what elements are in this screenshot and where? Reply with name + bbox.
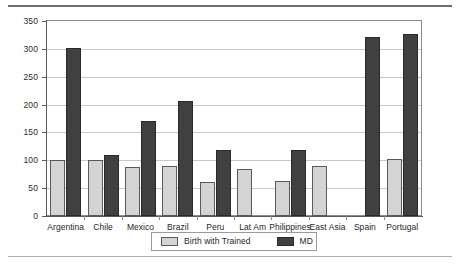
chart-legend: Birth with Trained MD xyxy=(151,232,317,251)
legend-label: MD xyxy=(300,237,313,246)
x-axis-tick-mark xyxy=(197,216,198,220)
bar-birth-with-trained xyxy=(200,182,215,216)
legend-item-birth-with-trained: Birth with Trained xyxy=(161,237,251,246)
legend-swatch-dark-gray-swatch xyxy=(277,237,294,246)
bar-birth-with-trained xyxy=(387,159,402,216)
bar-md xyxy=(365,37,380,216)
bar-birth-with-trained xyxy=(88,160,103,216)
bar-md xyxy=(216,150,231,216)
bar-md xyxy=(66,48,81,216)
bar-group xyxy=(47,21,421,216)
bar-birth-with-trained xyxy=(125,167,140,216)
y-axis-tick-label: 350 xyxy=(0,17,38,26)
bar-birth-with-trained xyxy=(312,166,327,216)
bar-md xyxy=(141,121,156,216)
chart-page: 050100150200250300350 ArgentinaChileMexi… xyxy=(0,0,460,268)
x-axis-tick-mark xyxy=(309,216,310,220)
y-axis-tick-mark xyxy=(42,216,47,217)
x-axis-tick-mark xyxy=(122,216,123,220)
legend-label: Birth with Trained xyxy=(184,237,251,246)
y-axis-tick-label: 50 xyxy=(0,184,38,193)
x-axis-tick-mark xyxy=(159,216,160,220)
bottom-divider-rule xyxy=(8,256,452,257)
y-axis-tick-label: 250 xyxy=(0,72,38,81)
y-axis-tick-label: 100 xyxy=(0,156,38,165)
x-axis-tick-label: Portugal xyxy=(371,221,435,233)
x-axis-tick-mark xyxy=(384,216,385,220)
bar-md xyxy=(178,101,193,216)
y-axis-tick-label: 200 xyxy=(0,100,38,109)
bar-md xyxy=(403,34,418,216)
legend-item-md: MD xyxy=(277,237,313,246)
bar-md xyxy=(104,155,119,216)
y-axis-tick-label: 150 xyxy=(0,128,38,137)
y-axis-tick-label: 0 xyxy=(0,212,38,221)
bar-chart: 050100150200250300350 ArgentinaChileMexi… xyxy=(0,14,460,244)
top-divider-rule xyxy=(8,5,452,7)
bar-birth-with-trained xyxy=(162,166,177,216)
x-axis-tick-mark xyxy=(271,216,272,220)
bar-md xyxy=(291,150,306,216)
legend-swatch-light-gray-swatch xyxy=(161,237,178,246)
bar-birth-with-trained xyxy=(275,181,290,216)
bar-birth-with-trained xyxy=(50,160,65,216)
x-axis-tick-mark xyxy=(234,216,235,220)
bar-birth-with-trained xyxy=(237,169,252,216)
x-axis-tick-mark xyxy=(346,216,347,220)
y-axis-tick-label: 300 xyxy=(0,45,38,54)
x-axis-tick-mark xyxy=(84,216,85,220)
